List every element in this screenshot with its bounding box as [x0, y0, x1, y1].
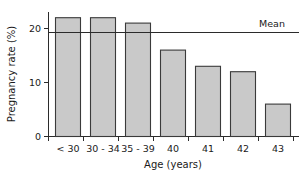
x-tick-label-lt30: < 30: [56, 143, 79, 154]
bar-35-39: [126, 23, 151, 136]
pregnancy-rate-bar-chart: 0 10 20 Pregnancy rate (%) Mean: [0, 0, 305, 173]
bar-41: [196, 66, 221, 136]
bar-30-34: [91, 18, 116, 137]
bar-43: [266, 104, 291, 136]
x-tick-label-41: 41: [202, 143, 214, 154]
y-tick-label-20: 20: [29, 23, 41, 34]
y-tick-label-10: 10: [29, 77, 41, 88]
chart-figure: 0 10 20 Pregnancy rate (%) Mean: [0, 0, 305, 173]
x-tick-label-30-34: 30 - 34: [86, 143, 120, 154]
y-tick-label-0: 0: [35, 131, 41, 142]
x-tick-label-43: 43: [272, 143, 284, 154]
x-axis-title: Age (years): [144, 159, 202, 170]
y-axis-title: Pregnancy rate (%): [6, 26, 17, 123]
x-tick-label-40: 40: [167, 143, 179, 154]
x-tick-label-42: 42: [237, 143, 249, 154]
bar-lt30: [56, 18, 81, 137]
bar-40: [161, 50, 186, 136]
mean-line-label: Mean: [259, 18, 285, 29]
x-tick-label-35-39: 35 - 39: [121, 143, 155, 154]
bar-42: [231, 72, 256, 137]
